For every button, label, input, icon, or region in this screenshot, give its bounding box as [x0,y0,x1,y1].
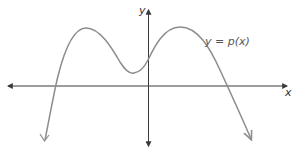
left-end-arrow-icon [40,134,49,141]
curve-label: y = p(x) [205,36,250,47]
function-graph [0,0,295,154]
y-axis-label: y [139,5,146,16]
x-axis-label: x [285,87,292,98]
